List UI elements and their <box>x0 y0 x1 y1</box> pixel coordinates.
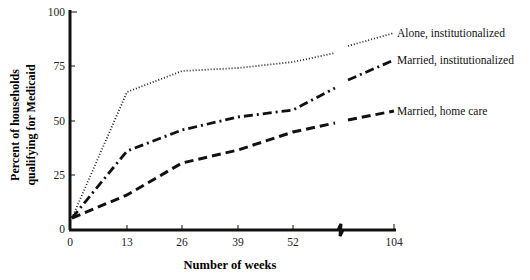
x-tick-26: 26 <box>176 236 188 248</box>
y-tick-75: 75 <box>54 60 66 72</box>
x-tick-52: 52 <box>287 236 299 248</box>
y-tick-100: 100 <box>48 6 66 18</box>
y-tick-50: 50 <box>54 115 66 127</box>
x-tick-13: 13 <box>121 236 133 248</box>
y-tick-labels: 100 75 50 25 0 <box>48 6 66 235</box>
x-tick-0: 0 <box>67 236 73 248</box>
line-chart: Percent of households qualifying for Med… <box>0 0 530 280</box>
x-tick-labels: 0 13 26 39 52 104 <box>67 236 403 248</box>
legend-married-institutionalized: Married, institutionalized <box>397 54 514 67</box>
y-tick-0: 0 <box>59 223 65 235</box>
y-axis-title: Percent of households qualifying for Med… <box>8 64 38 185</box>
x-axis-title: Number of weeks <box>184 258 277 272</box>
y-axis-title-line1: Percent of households <box>8 69 22 181</box>
x-tick-104: 104 <box>385 236 403 248</box>
y-axis-title-line2: qualifying for Medicaid <box>24 64 38 185</box>
x-tick-39: 39 <box>232 236 244 248</box>
series-married-home-care <box>72 111 394 218</box>
legend-alone-institutionalized: Alone, institutionalized <box>397 27 505 40</box>
series-married-institutionalized <box>72 60 394 218</box>
series-alone-institutionalized <box>72 33 394 218</box>
x-axis <box>69 224 396 236</box>
y-tick-25: 25 <box>54 169 66 181</box>
legend-married-home-care: Married, home care <box>397 105 487 118</box>
